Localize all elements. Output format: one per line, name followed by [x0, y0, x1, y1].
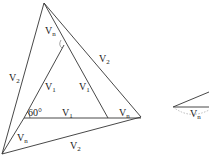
label-vn-top: Vn	[45, 25, 56, 38]
label-angle-60: 60°	[28, 107, 42, 118]
label-vn-small: Vn	[190, 108, 201, 121]
label-vn-left: Vn	[17, 132, 28, 145]
angle-arc-top	[60, 40, 62, 48]
label-v1-left: V1	[45, 81, 56, 94]
label-v2-right: V2	[99, 53, 110, 66]
vector-diagram: Vn V2 V2 V1 V1 60° V1 Vn Vn V2 Vn	[0, 0, 209, 158]
label-v2-left: V2	[9, 72, 20, 85]
label-v2-bottom: V2	[70, 140, 81, 153]
